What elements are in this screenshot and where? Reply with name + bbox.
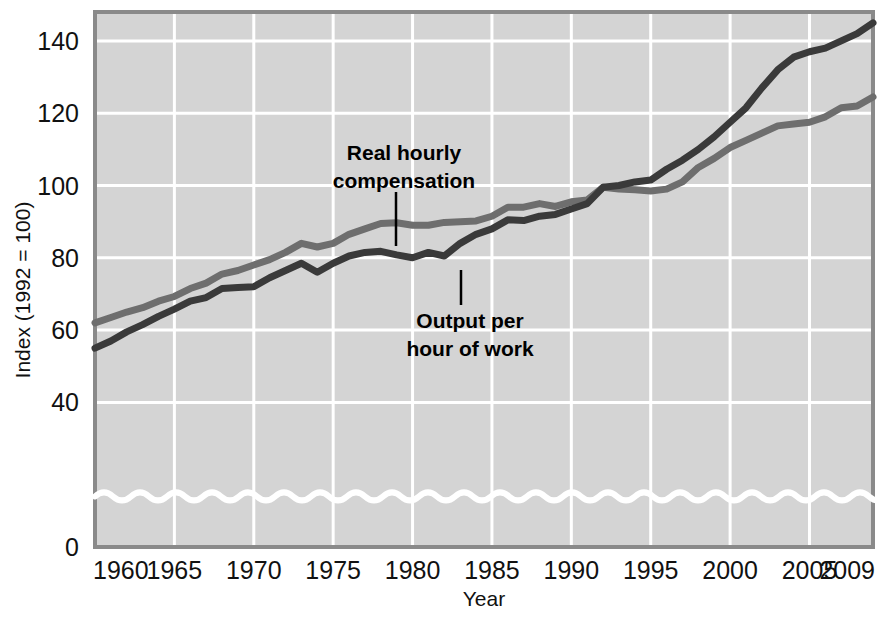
productivity-compensation-line-chart: 0406080100120140 19601965197019751980198…: [0, 0, 894, 621]
x-tick-label: 1985: [464, 556, 520, 584]
x-tick-label: 2000: [702, 556, 758, 584]
x-tick-label: 1995: [623, 556, 679, 584]
y-tick-label: 140: [37, 27, 79, 55]
y-tick-label: 60: [51, 316, 79, 344]
chart-container: 0406080100120140 19601965197019751980198…: [0, 0, 894, 621]
x-tick-label: 1960: [93, 556, 149, 584]
y-tick-label: 0: [65, 533, 79, 561]
y-tick-label: 80: [51, 244, 79, 272]
x-tick-label: 2009: [819, 556, 875, 584]
x-tick-label: 1970: [226, 556, 282, 584]
y-tick-label: 40: [51, 388, 79, 416]
x-axis-title: Year: [463, 587, 505, 610]
x-tick-label: 1990: [544, 556, 600, 584]
y-tick-label: 120: [37, 99, 79, 127]
x-tick-label: 1965: [147, 556, 203, 584]
y-axis-title: Index (1992 = 100): [11, 202, 34, 379]
x-tick-label: 1975: [305, 556, 361, 584]
x-tick-label: 1980: [385, 556, 441, 584]
y-tick-label: 100: [37, 172, 79, 200]
